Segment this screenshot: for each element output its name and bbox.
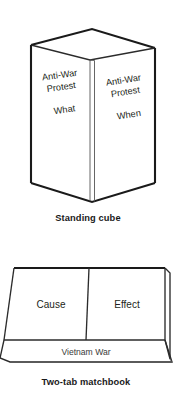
cube-right-face bbox=[95, 48, 155, 201]
matchbook-base-label: Vietnam War bbox=[61, 347, 110, 357]
matchbook-front-panel bbox=[4, 268, 165, 340]
two-tab-matchbook-figure: Cause Effect Vietnam War Two-tab matchbo… bbox=[0, 240, 173, 412]
two-tab-matchbook-illustration: Cause Effect Vietnam War Two-tab matchbo… bbox=[0, 240, 173, 412]
standing-cube-figure: Anti-War Protest What Anti-War Protest W… bbox=[0, 0, 173, 230]
cube-left-face bbox=[31, 45, 90, 201]
standing-cube-illustration: Anti-War Protest What Anti-War Protest W… bbox=[0, 0, 173, 230]
matchbook-left-tab-label: Cause bbox=[37, 299, 66, 310]
matchbook-right-tab-label: Effect bbox=[114, 299, 140, 310]
cube-front-seam-top-cap bbox=[90, 60, 95, 61]
standing-cube-caption: Standing cube bbox=[55, 213, 120, 223]
two-tab-matchbook-caption: Two-tab matchbook bbox=[42, 377, 132, 387]
